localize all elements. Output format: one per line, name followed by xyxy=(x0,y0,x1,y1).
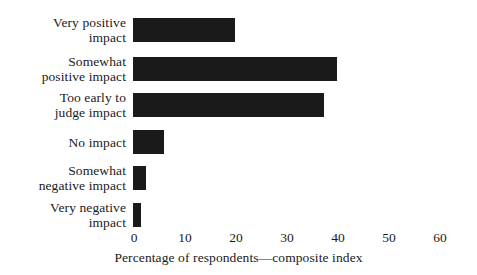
bar xyxy=(133,203,141,227)
bar-row: Somewhat negative impact xyxy=(0,166,477,190)
category-label: Somewhat negative impact xyxy=(0,163,126,193)
bar xyxy=(133,57,337,81)
bar xyxy=(133,18,235,42)
x-axis-tick-label: 10 xyxy=(178,230,192,246)
bar-row: Very negative impact xyxy=(0,203,477,227)
bar xyxy=(133,93,324,117)
bar-row: No impact xyxy=(0,130,477,154)
category-label: Very negative impact xyxy=(0,200,126,230)
bar xyxy=(133,166,146,190)
x-axis-tick-label: 30 xyxy=(280,230,294,246)
bar-row: Very positive impact xyxy=(0,18,477,42)
horizontal-bar-chart: Very positive impact Somewhat positive i… xyxy=(0,0,477,275)
x-axis-tick-label: 0 xyxy=(131,230,138,246)
x-axis-tick-label: 60 xyxy=(433,230,447,246)
bar-row: Too early to judge impact xyxy=(0,93,477,117)
x-axis-tick-label: 40 xyxy=(331,230,345,246)
category-label: Very positive impact xyxy=(0,15,126,45)
x-axis-title: Percentage of respondents—composite inde… xyxy=(0,250,477,266)
category-label: Somewhat positive impact xyxy=(0,54,126,84)
category-label: Too early to judge impact xyxy=(0,90,126,120)
category-label: No impact xyxy=(0,135,126,150)
bar xyxy=(133,130,164,154)
bar-row: Somewhat positive impact xyxy=(0,57,477,81)
x-axis-tick-label: 20 xyxy=(229,230,243,246)
x-axis-tick-label: 50 xyxy=(382,230,396,246)
